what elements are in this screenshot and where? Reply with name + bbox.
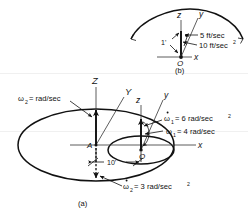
length-leader-upper-b [172,33,179,39]
omega2-dot-exponent: 2 [187,181,190,187]
omega1-subscript: 1 [173,132,176,138]
acceleration-label-b: 10 ft/sec 2 [199,39,236,50]
distance-label: 10' [107,159,116,166]
omega2-dot-subscript: 2 [130,187,133,193]
axis-label-y-b: y [198,9,204,19]
omega1-dot-exponent: 2 [228,113,231,119]
axis-label-z-local-a: z [135,95,141,105]
velocity-label-b: 5 ft/sec [200,31,225,40]
omega2-label-group: ω 2 = rad/sec [18,94,61,105]
omega1-dot-label-group: ω 1 = 6 rad/sec 2 [164,112,231,125]
point-A-dot [95,144,98,147]
arc-end-tick-right-b [238,38,243,44]
omega1-dot-symbol: ω [164,114,170,123]
axis-label-Y-a: Y [125,86,132,97]
figure-root: z y x O 1' 5 ft/sec 10 ft/sec 2 (b) [0,0,248,215]
caption-b: (b) [175,66,185,75]
omega1-equation: = 4 rad/sec [177,127,215,136]
acceleration-value-b: 10 ft/sec [199,41,228,50]
omega1-leader [145,131,163,134]
omega1-dot-equation: = 6 rad/sec [175,114,213,123]
point-O-label: O [139,152,145,161]
detail-view-b: z y x O 1' 5 ft/sec 10 ft/sec 2 (b) [131,9,243,75]
main-view-a: Z Y z y x A O 10' ω 2 = rad/sec ω 1 = 6 … [18,75,231,208]
kinematics-figure: z y x O 1' 5 ft/sec 10 ft/sec 2 (b) [0,0,248,215]
omega1-symbol: ω [166,127,172,136]
axis-label-y-local-a: y [163,90,169,100]
omega2-dot-label-group: ω 2 = 3 rad/sec 2 [123,180,190,193]
omega2-equation: = rad/sec [29,94,61,103]
omega1-dot-subscript: 1 [171,119,174,125]
acceleration-exp-b: 2 [233,39,236,45]
axis-label-x-a: x [197,140,203,150]
axis-label-z-b: z [176,10,182,20]
omega2-dot-equation: = 3 rad/sec [134,182,172,191]
omega2-symbol: ω [18,94,24,103]
omega2-subscript: 2 [25,99,28,105]
axis-label-x-b: x [193,52,199,62]
axis-label-Z-a: Z [91,75,99,86]
omega1-label-group: ω 1 = 4 rad/sec [166,127,215,138]
length-leader-lower-b [170,45,178,53]
global-Y-axis-line [96,97,124,145]
caption-a: (a) [78,199,88,208]
point-A-label: A [86,141,92,150]
length-label-b: 1' [161,39,166,46]
omega2-dot-symbol: ω [123,182,129,191]
